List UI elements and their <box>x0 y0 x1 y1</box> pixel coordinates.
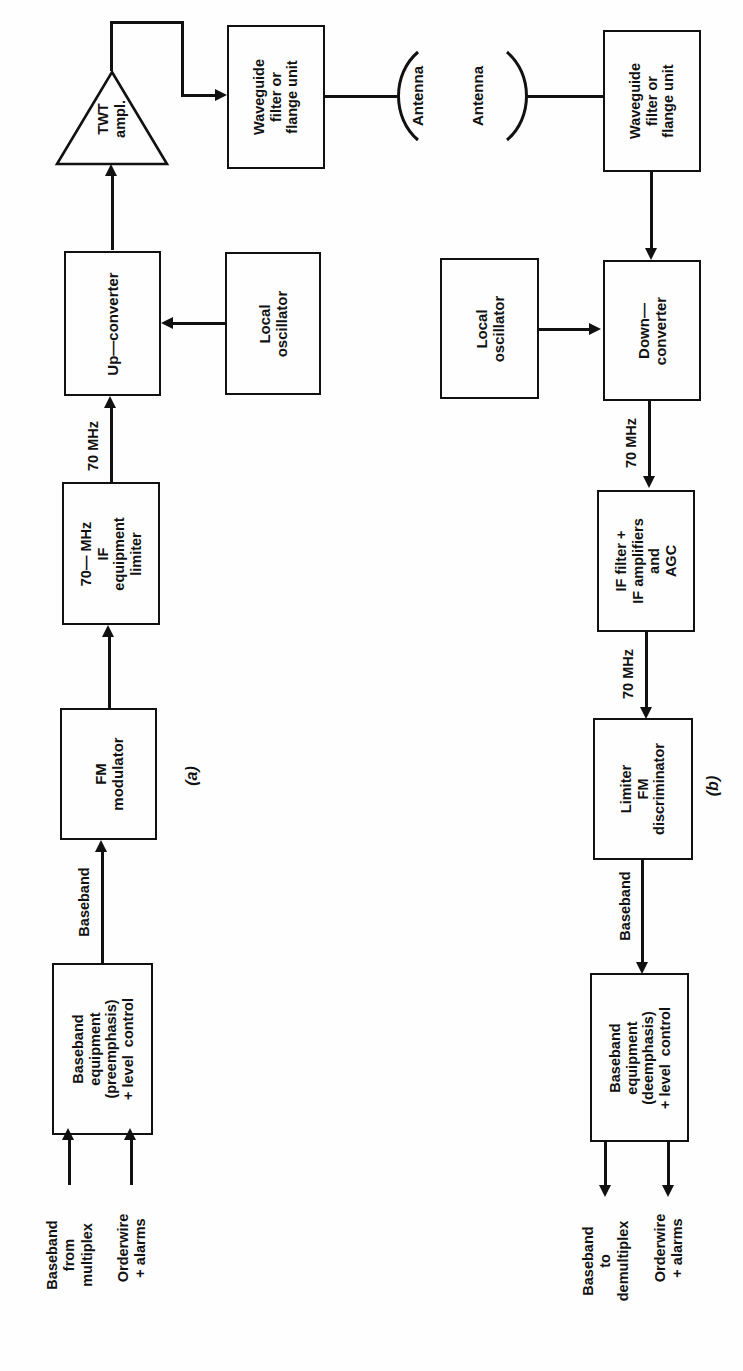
rx-baseband-output-line <box>604 1141 607 1189</box>
tx-block-baseband-equipment[interactable]: Baseband equipment (preemphasis) + level… <box>52 963 153 1135</box>
rx-block-local-oscillator[interactable]: Local oscillator <box>440 258 539 399</box>
rx-block-waveguide-filter[interactable]: Waveguide filter or flange unit <box>603 30 701 172</box>
rx-lo-link-arrowhead <box>589 323 601 335</box>
rx-limiter-to-baseband-link <box>641 859 644 966</box>
tx-twt-out-top <box>110 21 183 24</box>
caption-a: (a) <box>183 766 201 786</box>
input-label-baseband-from-multiplex: Baseband from multiplex <box>44 1220 96 1289</box>
tx-baseband-link-arrowhead <box>95 840 107 852</box>
orderwire-input-line <box>130 1133 133 1185</box>
tx-twt-out-riser <box>110 21 113 71</box>
rx-down-converter-label: Down— converter <box>635 296 669 364</box>
tx-block-fm-modulator[interactable]: FM modulator <box>60 708 157 840</box>
caption-b: (b) <box>704 776 722 796</box>
rx-downconv-to-iffilter-arrowhead <box>643 476 655 488</box>
rx-limiter-discriminator-label: Limiter FM discriminator <box>618 743 668 835</box>
tx-mod-to-if-link <box>108 633 111 709</box>
rx-baseband-output-arrowhead <box>599 1185 611 1197</box>
figure-canvas: Baseband from multiplex Orderwire + alar… <box>0 0 743 1371</box>
tx-twt-amplifier-label: TWT ampl. <box>95 100 128 138</box>
rx-iffilter-to-limiter-link <box>645 631 648 711</box>
rx-if-filter-amplifiers-label: IF filter + IF amplifiers and AGC <box>613 518 679 603</box>
tx-fm-modulator-label: FM modulator <box>91 737 125 810</box>
rx-antenna-feedline <box>527 95 604 98</box>
rx-flow-label-baseband: Baseband <box>617 871 633 940</box>
rx-antenna-label: Antenna <box>469 66 486 126</box>
tx-block-if-equipment[interactable]: 70— MHz IF equipment limiter <box>62 482 160 625</box>
rx-lo-link <box>539 328 592 331</box>
rx-flow-label-70mhz-in: 70 MHz <box>623 418 639 468</box>
rx-waveguide-to-downconv-arrowhead <box>645 248 657 260</box>
tx-lo-link <box>173 322 227 325</box>
tx-if-to-upconv-link <box>110 404 113 483</box>
tx-block-local-oscillator[interactable]: Local oscillator <box>225 252 321 395</box>
tx-lo-link-arrowhead <box>161 317 173 329</box>
rx-block-baseband-equipment[interactable]: Baseband equipment (deemphasis) + level … <box>590 973 689 1142</box>
tx-waveguide-in-arrowhead <box>215 89 227 101</box>
rx-flow-label-70mhz-out: 70 MHz <box>620 649 636 699</box>
output-label-baseband-to-demultiplex: Baseband to demultiplex <box>580 1221 632 1302</box>
rx-local-oscillator-label: Local oscillator <box>472 295 506 362</box>
tx-twt-out-drop <box>181 21 184 96</box>
tx-block-waveguide-filter[interactable]: Waveguide filter or flange unit <box>227 25 325 169</box>
rx-downconv-to-iffilter-link <box>648 400 651 480</box>
tx-baseband-link <box>101 848 104 964</box>
rx-block-if-filter-amplifiers[interactable]: IF filter + IF amplifiers and AGC <box>597 490 695 632</box>
tx-if-equipment-label: 70— MHz IF equipment limiter <box>78 517 144 590</box>
tx-block-up-converter[interactable]: Up—converter <box>64 251 161 396</box>
tx-baseband-equipment-label: Baseband equipment (preemphasis) + level… <box>69 998 135 1100</box>
tx-local-oscillator-label: Local oscillator <box>256 290 290 357</box>
output-label-orderwire-alarms: Orderwire + alarms <box>652 1214 687 1283</box>
rx-waveguide-to-downconv-link <box>650 171 653 253</box>
input-label-orderwire-alarms: Orderwire + alarms <box>115 1214 150 1283</box>
tx-flow-label-baseband: Baseband <box>76 867 92 936</box>
rx-orderwire-output-arrowhead <box>662 1185 674 1197</box>
tx-waveguide-filter-label: Waveguide filter or flange unit <box>251 59 301 135</box>
rx-block-limiter-discriminator[interactable]: Limiter FM discriminator <box>593 718 693 860</box>
tx-twt-out-run <box>181 94 217 97</box>
rx-baseband-equipment-label: Baseband equipment (deemphasis) + level … <box>606 1007 672 1109</box>
tx-if-to-upconv-arrowhead <box>104 396 116 408</box>
rx-waveguide-filter-label: Waveguide filter or flange unit <box>627 63 677 139</box>
rx-block-down-converter[interactable]: Down— converter <box>603 260 701 401</box>
tx-antenna-label: Antenna <box>409 66 426 126</box>
tx-flow-label-70mhz: 70 MHz <box>85 421 101 471</box>
tx-up-converter-label: Up—converter <box>104 272 121 375</box>
tx-mod-to-if-arrowhead <box>102 625 114 637</box>
rx-orderwire-output-line <box>667 1141 670 1189</box>
baseband-input-line <box>68 1133 71 1185</box>
tx-upconv-to-twt-link <box>111 172 114 250</box>
